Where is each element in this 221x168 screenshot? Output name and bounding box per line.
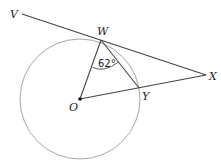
label-o: O bbox=[69, 101, 78, 114]
angle-label: 62° bbox=[98, 58, 116, 69]
label-x: X bbox=[208, 70, 218, 83]
label-y: Y bbox=[142, 90, 151, 103]
label-w: W bbox=[97, 25, 110, 38]
geometry-diagram: V W X Y O 62° bbox=[0, 0, 221, 168]
center-point-o bbox=[78, 97, 82, 101]
label-v: V bbox=[10, 8, 19, 21]
